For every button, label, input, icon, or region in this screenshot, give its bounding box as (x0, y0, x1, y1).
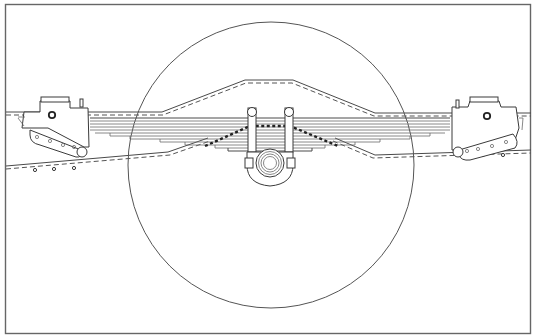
diagram-svg (0, 0, 537, 336)
leaf-spring-pack (90, 118, 450, 151)
suspension-diagram: Leaf spring rear suspension – side eleva… (0, 0, 537, 336)
axle-housing (245, 149, 295, 186)
front-hanger (18, 97, 89, 157)
rivets-left (33, 166, 75, 171)
